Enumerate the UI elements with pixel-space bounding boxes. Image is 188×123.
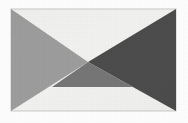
figure-canvas <box>0 0 188 123</box>
geometric-figure <box>0 0 188 123</box>
scan-shading <box>11 9 176 111</box>
